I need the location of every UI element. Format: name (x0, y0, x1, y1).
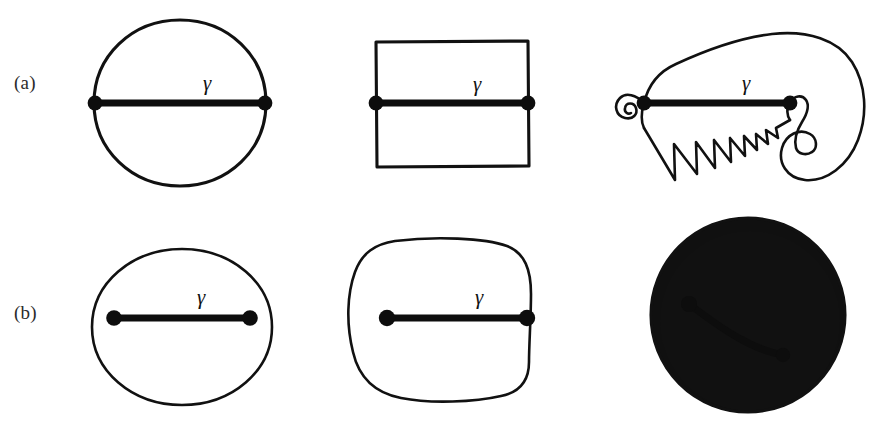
sawtooth-zigzag (644, 120, 790, 180)
gamma-endpoint-right-a2 (521, 96, 536, 111)
row-label-a: (a) (14, 72, 36, 94)
gamma-endpoint-right-b1 (242, 310, 258, 326)
gamma-endpoint-right-b2 (519, 310, 535, 326)
gamma-endpoint-right-a3 (783, 96, 798, 111)
gamma-endpoint-left-a2 (369, 96, 384, 111)
row-label-b: (b) (14, 302, 37, 324)
gamma-endpoint-left-a3 (637, 96, 652, 111)
gamma-label-b2: γ (475, 285, 484, 309)
ellipse-outline (92, 249, 272, 405)
panel-a1-circle: γ (80, 8, 280, 198)
gamma-endpoint-left-a1 (88, 96, 103, 111)
blob-upper-outline (644, 33, 864, 180)
gamma-endpoint-left-b2 (379, 310, 395, 326)
gamma-endpoint-left-b3 (681, 296, 697, 312)
figure-root: (a) (b) γ γ γ γ (0, 0, 886, 430)
panel-b2-rounded-blob: γ (335, 232, 550, 412)
gamma-label-a1: γ (203, 71, 212, 95)
gamma-label-a2: γ (473, 72, 482, 96)
panel-a2-rectangle: γ (365, 32, 540, 177)
gamma-label-b3: γ (749, 295, 758, 319)
panel-b1-ellipse: γ (82, 240, 282, 415)
gamma-endpoint-right-b3 (776, 348, 790, 362)
panel-a3-irregular-blob: γ (600, 10, 885, 205)
gamma-label-a3: γ (742, 71, 751, 95)
gamma-endpoint-right-a1 (258, 96, 273, 111)
gamma-label-b1: γ (197, 285, 206, 309)
panel-b3-shaded-sphere: γ (645, 212, 855, 422)
gamma-endpoint-left-b1 (106, 310, 122, 326)
